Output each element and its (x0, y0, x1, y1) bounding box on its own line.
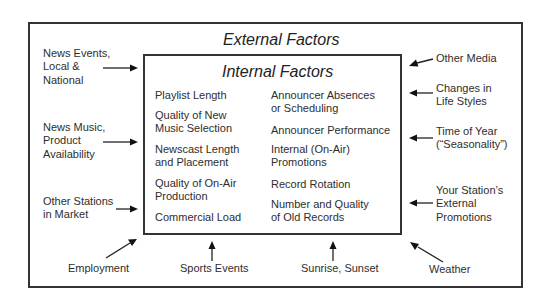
internal-factor-newscast: Newscast Lengthand Placement (155, 143, 239, 170)
internal-factor-announcer-performance: Announcer Performance (271, 124, 390, 137)
external-factor-news-music: News Music,ProductAvailability (43, 121, 105, 161)
external-factor-weather: Weather (429, 263, 470, 276)
internal-factor-commercial-load: Commercial Load (155, 211, 241, 224)
external-factor-other-stations: Other Stationsin Market (43, 195, 113, 222)
internal-factor-on-air-promotions: Internal (On-Air)Promotions (271, 143, 350, 170)
external-factors-title: External Factors (223, 31, 339, 49)
internal-factor-playlist-length: Playlist Length (155, 89, 227, 102)
external-factor-news-events: News Events,Local &National (43, 47, 110, 87)
external-factor-seasonality: Time of Year(“Seasonality”) (436, 125, 508, 152)
external-factor-other-media: Other Media (436, 52, 497, 65)
external-factor-station-promotions: Your Station’sExternalPromotions (436, 184, 503, 224)
internal-factor-record-rotation: Record Rotation (271, 178, 351, 191)
internal-factor-on-air-production: Quality of On-AirProduction (155, 177, 236, 204)
internal-factor-old-records: Number and Qualityof Old Records (271, 198, 369, 225)
external-factor-life-styles: Changes inLife Styles (436, 82, 492, 109)
internal-factor-new-music-quality: Quality of NewMusic Selection (155, 109, 232, 136)
internal-factors-title: Internal Factors (222, 63, 333, 81)
external-factor-sports-events: Sports Events (180, 262, 248, 275)
external-factor-employment: Employment (68, 262, 129, 275)
external-factor-sunrise-sunset: Sunrise, Sunset (301, 262, 379, 275)
internal-factor-announcer-absences: Announcer Absencesor Scheduling (271, 89, 375, 116)
